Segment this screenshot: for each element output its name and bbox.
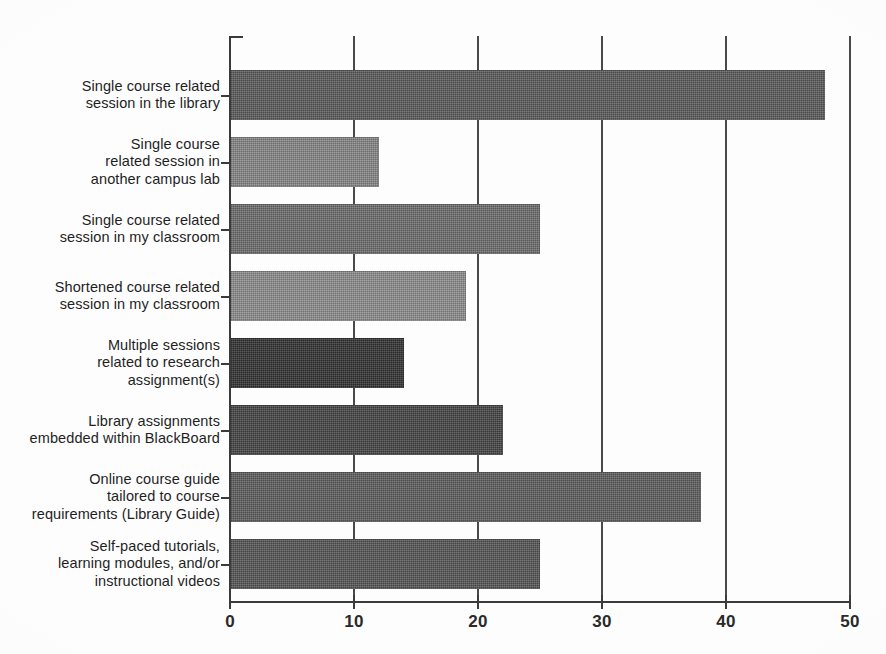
category-labels: Single course relatedsession in the libr… <box>8 0 220 654</box>
bar-chart: 01020304050 Single course relatedsession… <box>0 0 886 654</box>
y-axis-top-cap <box>229 36 243 38</box>
category-label: Online course guidetailored to coursereq… <box>10 471 220 524</box>
category-tick <box>221 229 230 231</box>
x-tick-20 <box>477 595 479 609</box>
category-label-line: another campus lab <box>10 171 220 189</box>
category-label-line: tailored to course <box>10 488 220 506</box>
category-label: Self-paced tutorials,learning modules, a… <box>10 538 220 591</box>
category-tick <box>221 95 230 97</box>
category-label-line: Self-paced tutorials, <box>10 538 220 556</box>
category-label-line: session in my classroom <box>10 296 220 314</box>
x-tick-30 <box>601 595 603 609</box>
bar <box>230 338 404 388</box>
category-label-line: related session in <box>10 153 220 171</box>
category-label: Library assignmentsembedded within Black… <box>10 413 220 448</box>
category-label-line: instructional videos <box>10 573 220 591</box>
category-tick <box>221 162 230 164</box>
category-label-line: requirements (Library Guide) <box>10 506 220 524</box>
category-label-line: Single course <box>10 136 220 154</box>
category-label-line: learning modules, and/or <box>10 555 220 573</box>
x-tick-10 <box>353 595 355 609</box>
x-tick-label-10: 10 <box>344 612 363 632</box>
category-label-line: related to research <box>10 354 220 372</box>
category-label: Single course relatedsession in the libr… <box>10 78 220 113</box>
x-axis-line <box>229 601 851 603</box>
y-axis-line <box>229 36 231 602</box>
category-tick <box>221 430 230 432</box>
x-tick-0 <box>229 595 231 609</box>
category-label: Single course relatedsession in my class… <box>10 212 220 247</box>
category-label-line: Shortened course related <box>10 279 220 297</box>
category-label-line: Multiple sessions <box>10 337 220 355</box>
x-tick-label-30: 30 <box>592 612 611 632</box>
x-tick-label-0: 0 <box>225 612 235 632</box>
category-label-line: session in the library <box>10 95 220 113</box>
category-tick <box>221 363 230 365</box>
category-tick <box>221 497 230 499</box>
category-label-line: assignment(s) <box>10 372 220 390</box>
category-label-line: Single course related <box>10 78 220 96</box>
bar <box>230 271 466 321</box>
bar <box>230 137 379 187</box>
bar <box>230 204 540 254</box>
x-tick-label-20: 20 <box>468 612 487 632</box>
x-tick-label-50: 50 <box>840 612 859 632</box>
category-tick <box>221 564 230 566</box>
gridline-40 <box>725 36 727 602</box>
category-label-line: session in my classroom <box>10 229 220 247</box>
bar <box>230 70 825 120</box>
x-tick-label-40: 40 <box>716 612 735 632</box>
category-label-line: embedded within BlackBoard <box>10 430 220 448</box>
x-tick-40 <box>725 595 727 609</box>
category-label-line: Online course guide <box>10 471 220 489</box>
category-label-line: Library assignments <box>10 413 220 431</box>
category-label: Multiple sessionsrelated to researchassi… <box>10 337 220 390</box>
bar <box>230 405 503 455</box>
category-label: Shortened course relatedsession in my cl… <box>10 279 220 314</box>
x-tick-50 <box>849 595 851 609</box>
gridline-50 <box>849 36 851 602</box>
category-label-line: Single course related <box>10 212 220 230</box>
bar <box>230 472 701 522</box>
category-tick <box>221 296 230 298</box>
category-label: Single courserelated session inanother c… <box>10 136 220 189</box>
bar <box>230 539 540 589</box>
